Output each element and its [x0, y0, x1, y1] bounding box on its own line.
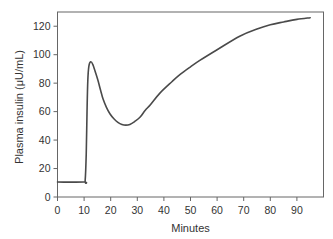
- x-tick-label: 60: [211, 204, 223, 216]
- x-tick-label: 0: [55, 204, 61, 216]
- y-tick-label: 20: [39, 162, 51, 174]
- x-tick-label: 10: [78, 204, 90, 216]
- y-tick-label: 80: [39, 77, 51, 89]
- y-tick-label: 120: [33, 20, 51, 32]
- x-tick-label: 50: [185, 204, 197, 216]
- insulin-line-chart: 020406080100120 0102030405060708090 Minu…: [0, 0, 333, 239]
- y-tick-label: 100: [33, 48, 51, 60]
- x-tick-label: 90: [291, 204, 303, 216]
- y-axis-title: Plasma insulin (μU/mL): [13, 50, 25, 164]
- insulin-curve: [58, 18, 311, 184]
- y-tick-label: 0: [45, 191, 51, 203]
- x-tick-label: 70: [238, 204, 250, 216]
- y-tick-label: 40: [39, 134, 51, 146]
- y-tick-label: 60: [39, 105, 51, 117]
- x-tick-label: 40: [158, 204, 170, 216]
- plot-frame: [58, 12, 324, 197]
- x-tick-label: 20: [105, 204, 117, 216]
- y-axis-ticks: 020406080100120: [33, 20, 58, 203]
- x-tick-label: 30: [131, 204, 143, 216]
- x-tick-label: 80: [264, 204, 276, 216]
- x-axis-title: Minutes: [171, 222, 210, 234]
- x-axis-ticks: 0102030405060708090: [55, 197, 303, 216]
